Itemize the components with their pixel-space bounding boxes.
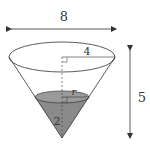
top-radius-label: 4 xyxy=(84,45,91,58)
cone-diagram: 8 4 r 2 5 xyxy=(0,0,150,144)
width-label: 8 xyxy=(60,9,68,24)
height-label: 5 xyxy=(138,90,146,105)
liquid-height-label: 2 xyxy=(54,115,61,128)
